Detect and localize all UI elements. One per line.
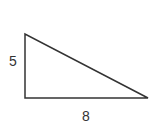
- triangle-diagram: [0, 0, 156, 129]
- base-label: 8: [82, 109, 90, 123]
- right-triangle-shape: [25, 34, 148, 98]
- height-label: 5: [9, 54, 17, 68]
